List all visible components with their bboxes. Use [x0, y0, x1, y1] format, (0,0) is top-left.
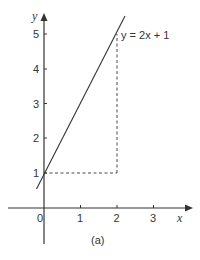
y-tick-label-1: 1: [33, 167, 39, 179]
x-tick-label-2: 2: [114, 212, 120, 224]
y-tick-label-3: 3: [33, 98, 39, 110]
equation-label: y = 2x + 1: [121, 29, 169, 41]
line-chart: 0 1 2 3 x 1 2 3 4 5 y y = 2x + 1 (a): [0, 0, 200, 260]
y-tick-label-2: 2: [33, 132, 39, 144]
origin-label: 0: [37, 212, 43, 224]
y-axis-arrow-icon: [41, 13, 48, 21]
y-tick-label-5: 5: [33, 28, 39, 40]
x-axis-label: x: [176, 211, 183, 225]
figure-caption: (a): [91, 234, 104, 246]
x-tick-label-3: 3: [150, 212, 156, 224]
x-tick-label-1: 1: [77, 212, 83, 224]
function-line: [37, 16, 126, 189]
y-axis-label: y: [31, 9, 38, 23]
y-tick-label-4: 4: [33, 63, 39, 75]
x-axis-arrow-icon: [185, 205, 193, 212]
